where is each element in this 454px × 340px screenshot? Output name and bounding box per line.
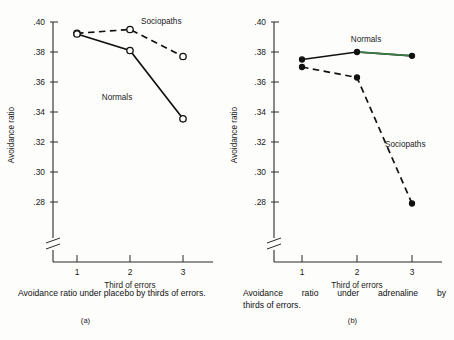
chart-b-label-normals: Normals [351,35,381,44]
chart-b-ytick-1: .38 [254,47,266,57]
chart-b-ytick-5: .30 [254,167,266,177]
chart-a-xtick-1: 1 [75,267,80,277]
caption-a-line1: Avoidance ratio under placebo by thirds … [18,288,178,298]
chart-b-series-sociopaths-point-1 [299,64,304,69]
chart-a-ytick-0: .40 [33,17,45,27]
panel-a: .40 .38 .36 .34 .32 .30 .28 [0,0,227,340]
figure-avoidance-ratio: .40 .38 .36 .34 .32 .30 .28 [0,0,454,340]
chart-a-y-tickmarks [50,22,58,202]
panel-b: .40 .38 .36 .34 .32 .30 .28 [227,0,454,340]
chart-b-x-tickmarks [302,255,412,262]
chart-a-label-sociopaths: Sociopaths [141,17,182,26]
caption-a: Avoidance ratio under placebo by thirds … [18,288,217,300]
chart-a-ytick-5: .30 [33,167,45,177]
chart-a-ytick-4: .32 [33,137,45,147]
chart-b-ytick-6: .28 [254,197,266,207]
chart-a-series-normals-point-3 [180,116,186,122]
chart-a-ytick-6: .28 [33,197,45,207]
chart-b-series-normals-point-2 [354,49,359,54]
chart-b-series-sociopaths-point-2 [354,75,359,80]
caption-b-line1: Avoidance ratio under adrenaline by [243,288,446,300]
chart-b-axis-break-icon [267,238,281,249]
chart-b-ylabel: Avoidance ratio [230,106,239,163]
chart-a-series-sociopaths-point-3 [180,53,186,59]
chart-b-series-normals-line-seg1 [302,52,357,60]
chart-b-ytick-0: .40 [254,17,266,27]
chart-b-plot: .40 .38 .36 .34 .32 .30 .28 [227,0,454,290]
chart-a-label-normals: Normals [102,93,132,102]
chart-a-series-normals-point-2 [127,47,133,53]
chart-b-series-sociopaths-point-3 [409,201,414,206]
chart-b-series-normals-accent-segment [360,52,410,55]
panel-label-a: (a) [0,316,199,325]
chart-b-xtick-1: 1 [300,267,305,277]
chart-b-ytick-2: .36 [254,77,266,87]
chart-b-series-normals-point-1 [299,57,304,62]
chart-a-plot: .40 .38 .36 .34 .32 .30 .28 [0,0,227,290]
panel-label-b: (b) [239,316,454,325]
chart-a-xtick-3: 3 [181,267,186,277]
chart-b-xtick-2: 2 [355,267,360,277]
chart-b-label-sociopaths: Sociopaths [385,140,426,149]
chart-a-series-normals-point-1 [74,31,80,37]
chart-a-ytick-3: .34 [33,107,45,117]
chart-a-ytick-2: .36 [33,77,45,87]
chart-b-y-tickmarks [271,22,279,202]
chart-a-x-tickmarks [77,255,183,262]
chart-a-ylabel: Avoidance ratio [7,106,16,163]
chart-b-xtick-3: 3 [410,267,415,277]
caption-a-line2: errors. [181,288,206,298]
chart-a-axis-break-icon [46,238,60,249]
chart-b-series-sociopaths-line [302,67,412,204]
chart-a-series-sociopaths-point-2 [127,26,133,32]
chart-b-series-normals-point-3 [409,53,414,58]
chart-b-ytick-4: .32 [254,137,266,147]
chart-a-ytick-1: .38 [33,47,45,57]
caption-b-line2: thirds of errors. [243,300,446,312]
chart-a-xtick-2: 2 [128,267,133,277]
chart-b-ytick-3: .34 [254,107,266,117]
caption-b: Avoidance ratio under adrenaline by thir… [243,288,446,311]
